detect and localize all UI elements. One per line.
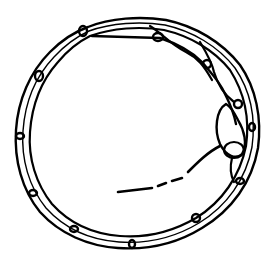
ring-drawing <box>0 0 272 260</box>
inner-loop <box>217 104 245 157</box>
working-thread-top <box>92 36 236 124</box>
knot-loop-icon <box>129 240 135 248</box>
knot-loop-icon <box>249 123 255 131</box>
thread-dash <box>172 178 182 181</box>
working-thread-zigzag <box>200 42 234 102</box>
knot-loop-icon <box>16 133 24 139</box>
knot-loop-icon <box>234 100 242 108</box>
knot-loop-icon <box>29 190 37 196</box>
knot-ring-diagram <box>0 0 272 260</box>
inner-loop-tail <box>231 158 234 182</box>
inner-strand <box>30 28 248 236</box>
knot-loop-icon <box>70 226 78 232</box>
thread-dash <box>118 188 152 192</box>
thread-end-curve <box>188 146 220 172</box>
thread-dash <box>158 183 166 186</box>
